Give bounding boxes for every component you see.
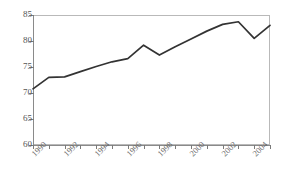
line-chart: 606570758085 199019921994199619982000200… <box>0 0 285 189</box>
data-line-series-1 <box>33 22 270 89</box>
series-layer <box>0 0 285 189</box>
